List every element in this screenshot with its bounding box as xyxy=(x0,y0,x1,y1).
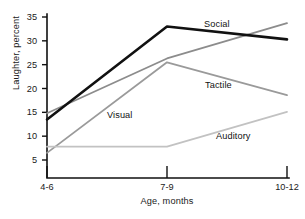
x-tick-label: 10-12 xyxy=(257,182,305,192)
series-line-social xyxy=(47,27,287,120)
y-tick-label: 5 xyxy=(11,155,37,165)
series-line-auditory xyxy=(47,112,287,147)
figure-caption xyxy=(4,209,124,219)
y-tick-label: 30 xyxy=(11,36,37,46)
x-tick-marks xyxy=(47,166,287,178)
series-label-visual: Visual xyxy=(107,110,132,120)
y-tick-label: 20 xyxy=(11,84,37,94)
data-series-lines xyxy=(47,23,287,153)
x-tick-label: 4-6 xyxy=(17,182,77,192)
series-line-visual xyxy=(47,62,287,153)
x-tick-label: 7-9 xyxy=(137,182,197,192)
laughter-by-age-line-chart: Laughter, percent Age, months 5101520253… xyxy=(0,0,305,219)
y-tick-label: 15 xyxy=(11,107,37,117)
x-axis-title: Age, months xyxy=(47,196,287,206)
y-tick-label: 35 xyxy=(11,12,37,22)
y-tick-label: 25 xyxy=(11,60,37,70)
series-label-social: Social xyxy=(204,19,230,29)
series-label-tactile: Tactile xyxy=(205,80,232,90)
y-tick-label: 10 xyxy=(11,131,37,141)
series-label-auditory: Auditory xyxy=(216,131,251,141)
